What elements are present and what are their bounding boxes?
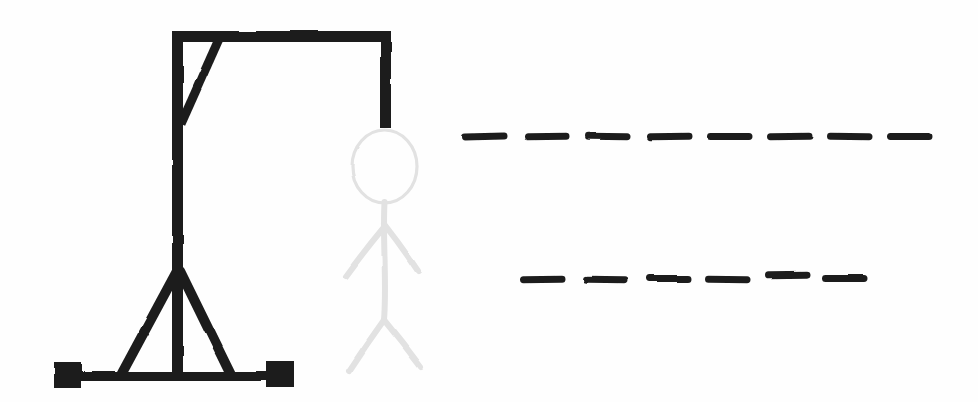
- letter-blank: [765, 272, 811, 280]
- hangman-drawing: [0, 0, 978, 402]
- letter-blank: [585, 133, 631, 140]
- letter-blank: [524, 133, 570, 140]
- letter-blank: [462, 133, 508, 141]
- word-2-blank-row: [520, 272, 868, 284]
- top-beam: [172, 31, 391, 42]
- body: [384, 202, 385, 320]
- gallows: [54, 31, 391, 388]
- left-leg: [349, 320, 384, 371]
- rope: [380, 31, 391, 128]
- letter-blank: [520, 276, 566, 283]
- word-1-blank-row: [462, 133, 933, 141]
- head: [352, 130, 417, 203]
- letter-blank: [707, 133, 753, 140]
- letter-blank: [827, 133, 873, 140]
- right-support-leg: [180, 271, 231, 375]
- letter-blank: [646, 275, 692, 282]
- post: [172, 31, 183, 381]
- left-support-leg: [121, 271, 177, 375]
- letter-blank: [822, 275, 868, 282]
- letter-blank: [705, 276, 751, 283]
- left-arm: [346, 226, 385, 276]
- hangman-canvas: [0, 0, 978, 402]
- letter-blank: [887, 133, 933, 140]
- right-arm: [384, 224, 418, 271]
- letter-blank: [583, 276, 629, 283]
- word-blank-rows: [462, 133, 933, 284]
- letter-blank: [647, 133, 693, 140]
- diagonal-brace: [181, 39, 219, 124]
- letter-blank: [767, 133, 813, 140]
- hanged-man-figure: [346, 130, 421, 371]
- right-leg: [384, 320, 421, 367]
